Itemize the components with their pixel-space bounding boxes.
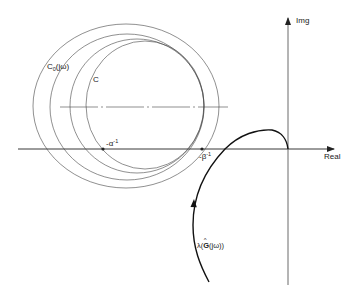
outer-circle — [33, 24, 219, 188]
beta-point — [200, 147, 203, 150]
imaginary-axis-label: Img — [296, 17, 309, 25]
c-label: C — [93, 76, 99, 84]
nyquist-circle-diagram — [0, 0, 357, 300]
real-axis-label: Real — [324, 153, 340, 161]
alpha-label: -α-1 — [106, 140, 118, 148]
lambda-label: λ(G(jω)) — [197, 242, 224, 250]
lambda-suffix: (jω)) — [209, 241, 224, 250]
lambda-hat-g: G — [203, 242, 209, 250]
alpha-point — [101, 147, 104, 150]
beta-sup: -1 — [206, 151, 211, 157]
beta-label: -β-1 — [199, 153, 211, 161]
alpha-sup: -1 — [113, 138, 118, 144]
c0-main: C — [47, 62, 53, 71]
c0-sub: 0 — [53, 66, 56, 72]
c0-rest: (jω) — [56, 62, 69, 71]
c0-label: C0(jω) — [47, 63, 69, 71]
